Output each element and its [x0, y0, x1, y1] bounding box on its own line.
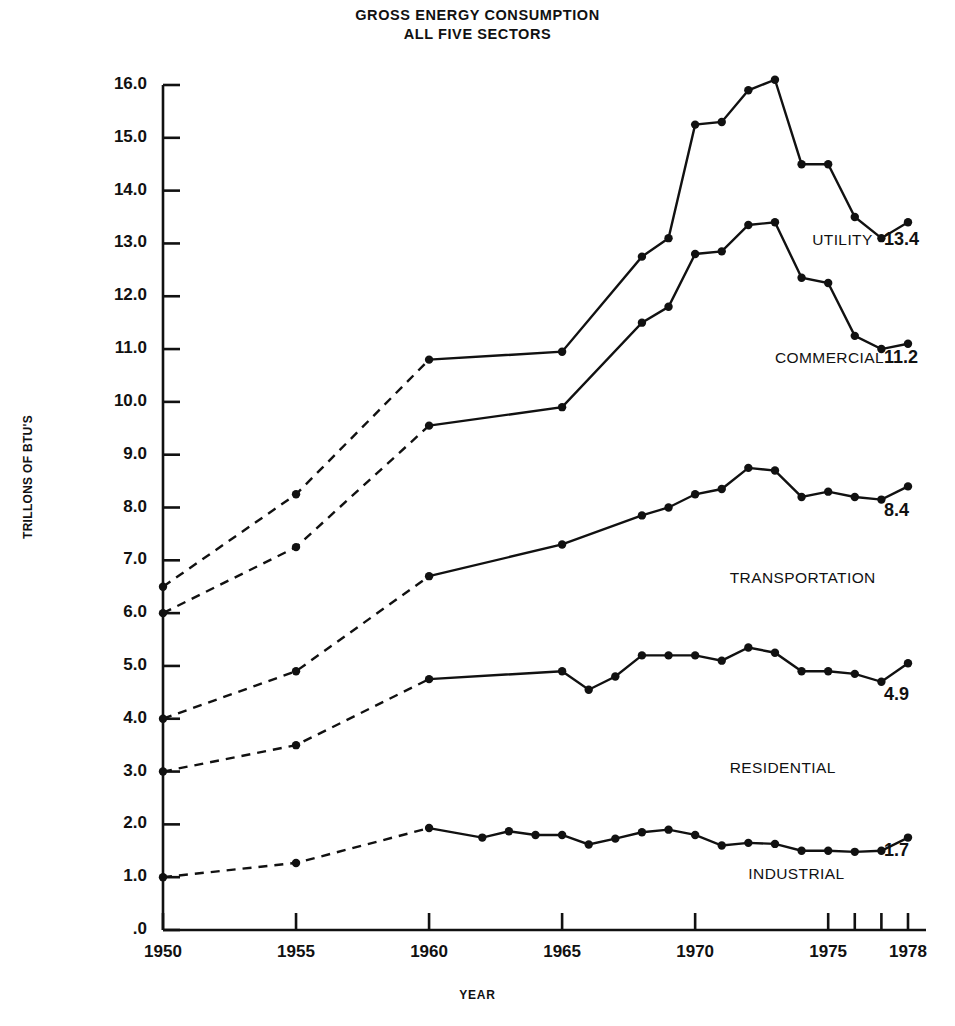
series-end-value-industrial: 1.7: [884, 840, 909, 861]
data-point-transportation: [638, 511, 646, 519]
y-tick-label: 8.0: [67, 497, 147, 517]
series-label-industrial: INDUSTRIAL: [748, 865, 844, 883]
data-point-industrial: [585, 840, 593, 848]
series-label-transportation: TRANSPORTATION: [730, 569, 876, 587]
x-tick-label: 1965: [517, 942, 607, 962]
data-point-industrial: [611, 834, 619, 842]
data-point-industrial: [664, 825, 672, 833]
data-point-residential: [638, 651, 646, 659]
y-tick-label: 16.0: [67, 74, 147, 94]
data-point-transportation: [851, 493, 859, 501]
data-point-commercial: [558, 403, 566, 411]
y-tick-label: 2.0: [67, 813, 147, 833]
series-line-transportation: [429, 468, 908, 576]
x-tick-label: 1970: [650, 942, 740, 962]
data-point-utility: [797, 160, 805, 168]
data-point-transportation: [797, 493, 805, 501]
data-point-commercial: [425, 421, 433, 429]
data-point-industrial: [531, 831, 539, 839]
data-point-utility: [851, 213, 859, 221]
data-point-residential: [425, 675, 433, 683]
data-point-residential: [744, 643, 752, 651]
data-point-utility: [558, 348, 566, 356]
data-point-transportation: [718, 485, 726, 493]
data-point-utility: [904, 218, 912, 226]
y-tick-label: 15.0: [67, 127, 147, 147]
data-point-residential: [159, 767, 167, 775]
data-point-utility: [691, 120, 699, 128]
data-point-transportation: [691, 490, 699, 498]
data-point-transportation: [824, 487, 832, 495]
data-point-industrial: [478, 833, 486, 841]
data-point-residential: [691, 651, 699, 659]
y-tick-label: 3.0: [67, 761, 147, 781]
data-point-residential: [904, 659, 912, 667]
y-tick-label: .0: [67, 919, 147, 939]
data-point-residential: [797, 667, 805, 675]
data-point-utility: [159, 583, 167, 591]
data-point-industrial: [159, 873, 167, 881]
data-point-utility: [718, 118, 726, 126]
data-point-residential: [851, 670, 859, 678]
data-point-industrial: [292, 859, 300, 867]
data-point-residential: [771, 649, 779, 657]
data-point-industrial: [797, 847, 805, 855]
y-tick-label: 11.0: [67, 338, 147, 358]
series-line-dashed-transportation: [163, 576, 429, 719]
data-point-utility: [638, 252, 646, 260]
series-label-residential: RESIDENTIAL: [730, 759, 836, 777]
series-end-value-residential: 4.9: [884, 684, 909, 705]
y-tick-label: 5.0: [67, 655, 147, 675]
data-point-commercial: [159, 609, 167, 617]
series-line-dashed-residential: [163, 679, 429, 771]
series-line-dashed-industrial: [163, 828, 429, 877]
data-point-commercial: [664, 303, 672, 311]
y-tick-label: 9.0: [67, 444, 147, 464]
series-end-value-commercial: 11.2: [884, 347, 918, 368]
data-point-commercial: [851, 332, 859, 340]
x-tick-label: 1950: [118, 942, 208, 962]
data-point-industrial: [718, 841, 726, 849]
x-tick-label: 1960: [384, 942, 474, 962]
data-point-transportation: [771, 466, 779, 474]
data-point-transportation: [904, 482, 912, 490]
data-point-utility: [744, 86, 752, 94]
data-point-industrial: [558, 831, 566, 839]
data-point-utility: [425, 355, 433, 363]
chart-axes: [163, 85, 926, 930]
data-point-transportation: [744, 464, 752, 472]
x-tick-label: 1978: [863, 942, 953, 962]
y-tick-label: 1.0: [67, 866, 147, 886]
data-point-commercial: [718, 247, 726, 255]
x-tick-label: 1975: [783, 942, 873, 962]
data-point-residential: [292, 741, 300, 749]
data-point-residential: [611, 672, 619, 680]
data-point-industrial: [851, 848, 859, 856]
data-point-transportation: [425, 572, 433, 580]
data-point-residential: [718, 656, 726, 664]
data-point-transportation: [292, 667, 300, 675]
y-tick-label: 4.0: [67, 708, 147, 728]
x-tick-label: 1955: [251, 942, 341, 962]
series-line-dashed-utility: [163, 360, 429, 587]
data-point-commercial: [691, 250, 699, 258]
series-line-commercial: [429, 222, 908, 425]
data-point-commercial: [771, 218, 779, 226]
y-tick-label: 10.0: [67, 391, 147, 411]
series-label-utility: UTILITY: [812, 231, 873, 249]
y-tick-label: 6.0: [67, 602, 147, 622]
data-point-utility: [771, 76, 779, 84]
y-tick-label: 13.0: [67, 232, 147, 252]
data-point-utility: [824, 160, 832, 168]
y-tick-label: 14.0: [67, 180, 147, 200]
data-point-commercial: [824, 279, 832, 287]
data-point-utility: [664, 234, 672, 242]
y-tick-label: 12.0: [67, 285, 147, 305]
data-point-industrial: [824, 847, 832, 855]
data-point-commercial: [744, 221, 752, 229]
series-line-utility: [429, 80, 908, 360]
data-point-commercial: [797, 274, 805, 282]
data-point-industrial: [691, 831, 699, 839]
data-point-industrial: [425, 824, 433, 832]
data-point-transportation: [159, 715, 167, 723]
